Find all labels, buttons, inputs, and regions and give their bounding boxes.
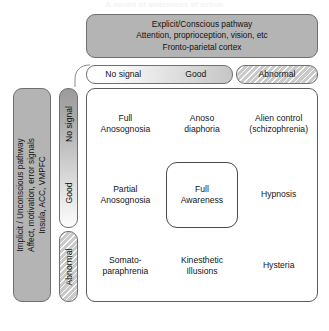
matrix-cell-hysteria: Hysteria xyxy=(240,230,317,301)
matrix-cell-kinesthetic-illusions: KinestheticIllusions xyxy=(164,230,241,301)
row-header-abnormal: Abnormal xyxy=(59,231,78,302)
column-header-group-signal: No signal Good xyxy=(86,65,233,84)
implicit-pathway-line-1: Implicit / Unconscious pathway xyxy=(15,90,26,300)
column-header-no-signal: No signal xyxy=(87,66,160,83)
row-header-no-signal: No signal xyxy=(60,89,77,158)
matrix-cell-somatoparaphrenia: Somato-paraphrenia xyxy=(87,230,164,301)
matrix-cell-hypnosis: Hypnosis xyxy=(240,160,317,231)
implicit-pathway-line-3: Insula, ACC, VMPFC xyxy=(38,90,49,300)
matrix-cell-anosodiaphoria: Anosodiaphoria xyxy=(164,89,241,160)
matrix-cell-full-anosognosia: FullAnosognosia xyxy=(87,89,164,160)
row-header-group-signal: No signal Good xyxy=(59,88,78,228)
explicit-conscious-pathway-box: Explicit/Conscious pathway Attention, pr… xyxy=(86,14,318,58)
explicit-pathway-line-3: Fronto-parietal cortex xyxy=(163,42,242,53)
implicit-pathway-text: Implicit / Unconscious pathway Affect, m… xyxy=(15,90,49,300)
figure-title: A model of awareness of action xyxy=(0,0,329,10)
explicit-pathway-line-1: Explicit/Conscious pathway xyxy=(152,19,253,30)
row-header-good: Good xyxy=(60,158,77,227)
matrix-cell-full-awareness: FullAwareness xyxy=(164,160,241,231)
matrix-cell-alien-control: Alien control(schizophrenia) xyxy=(240,89,317,160)
column-header-good: Good xyxy=(160,66,233,83)
matrix-cell-partial-anosognosia: PartialAnosognosia xyxy=(87,160,164,231)
figure-root: A model of awareness of action Explicit/… xyxy=(0,0,329,331)
row-header-good-label: Good xyxy=(64,182,74,203)
row-header-abnormal-label: Abnormal xyxy=(64,248,74,285)
column-header-abnormal: Abnormal xyxy=(236,65,318,84)
implicit-pathway-line-2: Affect, motivation, error signals xyxy=(26,90,37,300)
full-awareness-box: FullAwareness xyxy=(166,162,238,228)
awareness-matrix: FullAnosognosia Anosodiaphoria Alien con… xyxy=(86,88,318,302)
explicit-pathway-line-2: Attention, proprioception, vision, etc xyxy=(136,30,267,41)
implicit-unconscious-pathway-box: Implicit / Unconscious pathway Affect, m… xyxy=(13,88,51,302)
row-header-no-signal-label: No signal xyxy=(64,106,74,142)
